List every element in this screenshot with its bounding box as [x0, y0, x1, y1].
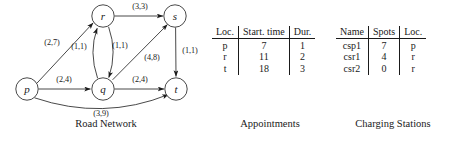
- cell-dur: 2: [289, 52, 315, 64]
- column-header-name: Name: [336, 26, 368, 39]
- column-header-dur: Dur.: [289, 26, 315, 39]
- cell-dur: 1: [289, 39, 315, 52]
- cell-start-time: 7: [239, 39, 290, 52]
- table-row: csr2 0 r: [336, 63, 426, 75]
- cell-start-time: 11: [239, 52, 290, 64]
- table-row: csp1 7 p: [336, 39, 426, 52]
- table-header-row: Name Spots Loc.: [336, 26, 426, 39]
- column-header-start-time: Start. time: [239, 26, 290, 39]
- figure-root: p q r s t (2,7) (2,4) (3,9) (1,1) (1,1) …: [0, 0, 452, 146]
- cell-spots: 0: [368, 63, 399, 75]
- charging-stations-table: Name Spots Loc. csp1 7 p csr1 4 r csr2 0…: [336, 26, 426, 75]
- cell-loc: t: [212, 63, 239, 75]
- table-row: t 18 3: [212, 63, 315, 75]
- column-header-loc: Loc.: [212, 26, 239, 39]
- edge-label-q-r: (1,1): [71, 42, 87, 51]
- graph-node-label-r: r: [101, 10, 106, 22]
- cell-loc: p: [212, 39, 239, 52]
- cell-dur: 3: [289, 63, 315, 75]
- edge-r-q: [109, 27, 114, 78]
- table-row: csr1 4 r: [336, 52, 426, 64]
- table-row: r 11 2: [212, 52, 315, 64]
- cell-loc: r: [400, 63, 427, 75]
- edge-q-r: [93, 28, 98, 78]
- charging-stations-caption: Charging Stations: [334, 118, 452, 129]
- table-row: p 7 1: [212, 39, 315, 52]
- edge-label-r-s: (3,3): [132, 2, 148, 11]
- edge-label-q-t: (2,4): [132, 75, 148, 84]
- table-header-row: Loc. Start. time Dur.: [212, 26, 315, 39]
- graph-node-label-s: s: [173, 10, 177, 22]
- edge-label-s-t: (1,1): [182, 46, 198, 55]
- graph-node-label-p: p: [23, 83, 30, 95]
- cell-loc: r: [212, 52, 239, 64]
- edge-label-p-r: (2,7): [44, 38, 60, 47]
- appointments-caption: Appointments: [210, 118, 330, 129]
- cell-loc: p: [400, 39, 427, 52]
- appointments-table: Loc. Start. time Dur. p 7 1 r 11 2 t 18 …: [212, 26, 315, 75]
- edge-label-p-t: (3,9): [93, 109, 109, 118]
- cell-loc: r: [400, 52, 427, 64]
- edge-label-q-s: (4,8): [144, 53, 160, 62]
- cell-name: csr1: [336, 52, 368, 64]
- cell-name: csr2: [336, 63, 368, 75]
- cell-name: csp1: [336, 39, 368, 52]
- edge-label-p-q: (2,4): [56, 75, 72, 84]
- cell-spots: 7: [368, 39, 399, 52]
- column-header-spots: Spots: [368, 26, 399, 39]
- edge-label-r-q: (1,1): [112, 41, 128, 50]
- road-network-caption: Road Network: [0, 118, 212, 129]
- column-header-loc: Loc.: [400, 26, 427, 39]
- cell-spots: 4: [368, 52, 399, 64]
- road-network-graph: p q r s t (2,7) (2,4) (3,9) (1,1) (1,1) …: [0, 0, 212, 120]
- graph-node-label-q: q: [100, 83, 106, 95]
- cell-start-time: 18: [239, 63, 290, 75]
